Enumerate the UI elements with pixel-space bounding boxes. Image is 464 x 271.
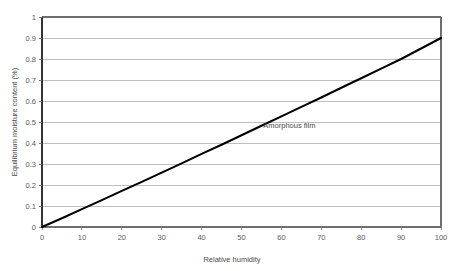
y-tick-label: 0.5 (26, 118, 36, 127)
x-tick-label: 50 (237, 233, 245, 242)
series-annotations: Amorphous film (263, 121, 315, 130)
x-tick-label: 60 (277, 233, 285, 242)
chart-container: 0102030405060708090100 00.10.20.30.40.50… (0, 0, 464, 271)
x-tick-label: 20 (118, 233, 126, 242)
x-tick-label: 30 (158, 233, 166, 242)
x-axis-title: Relative humidity (203, 255, 260, 264)
x-tick-label: 40 (197, 233, 205, 242)
y-tick-label: 0 (32, 223, 36, 232)
chart-annotation-label: Amorphous film (263, 121, 315, 130)
y-tick-label: 0.9 (26, 34, 36, 43)
x-tick-label: 10 (78, 233, 86, 242)
y-tick-label: 0.3 (26, 160, 36, 169)
y-tick-label: 0.1 (26, 202, 36, 211)
y-tick-label: 0.4 (26, 139, 36, 148)
y-tick-label: 0.6 (26, 97, 36, 106)
y-tick-label: 1 (32, 13, 36, 22)
x-tick-label: 70 (317, 233, 325, 242)
y-axis-title: Equilibrium moisture content (%) (10, 67, 19, 176)
y-tick-label: 0.7 (26, 76, 36, 85)
x-tick-label: 100 (435, 233, 448, 242)
x-tick-label: 90 (397, 233, 405, 242)
moisture-sorption-chart: 0102030405060708090100 00.10.20.30.40.50… (0, 0, 464, 271)
y-tick-label: 0.2 (26, 181, 36, 190)
x-tick-label: 80 (357, 233, 365, 242)
y-tick-label: 0.8 (26, 55, 36, 64)
x-tick-label: 0 (40, 233, 44, 242)
